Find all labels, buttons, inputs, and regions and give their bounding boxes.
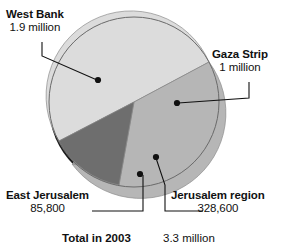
callout-gaza-strip-name: Gaza Strip	[212, 48, 268, 61]
callout-west-bank: West Bank 1.9 million	[6, 8, 64, 34]
data-point-gaza-strip	[174, 100, 180, 106]
footer-total-label: Total in 2003	[62, 232, 131, 244]
callout-jerusalem-region-name: Jerusalem region	[171, 189, 265, 202]
data-point-west-bank	[95, 77, 101, 83]
callout-gaza-strip-value: 1 million	[212, 61, 268, 74]
callout-east-jerusalem: East Jerusalem 85,800	[6, 189, 89, 215]
callout-west-bank-name: West Bank	[6, 8, 64, 21]
footer-total-value: 3.3 million	[163, 232, 215, 244]
data-point-east-jerusalem	[137, 171, 143, 177]
callout-east-jerusalem-name: East Jerusalem	[6, 189, 89, 202]
chart-footer: Total in 2003 3.3 million	[0, 232, 292, 251]
callout-gaza-strip: Gaza Strip 1 million	[212, 48, 268, 74]
callout-jerusalem-region: Jerusalem region 328,600	[171, 189, 265, 215]
callout-east-jerusalem-value: 85,800	[6, 202, 89, 215]
pie-chart-figure: West Bank 1.9 million Gaza Strip 1 milli…	[0, 0, 292, 251]
callout-jerusalem-region-value: 328,600	[171, 202, 265, 215]
callout-west-bank-value: 1.9 million	[6, 21, 64, 34]
data-point-jerusalem-region	[153, 154, 159, 160]
